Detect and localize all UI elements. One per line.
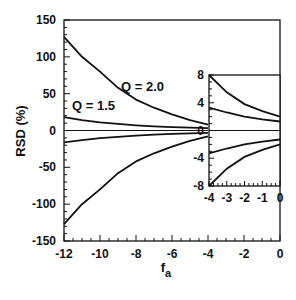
x-tick-label: -10 — [91, 247, 109, 261]
x-axis-title: fa — [161, 260, 172, 279]
x-tick-label: -4 — [203, 247, 214, 261]
inset-y-tick-label: 4 — [197, 96, 204, 110]
y-tick-label: 100 — [36, 50, 56, 64]
y-axis-title: RSD (%) — [13, 105, 28, 156]
y-tick-label: -50 — [39, 160, 57, 174]
inset-x-tick-label: 0 — [277, 191, 284, 205]
curve-line — [64, 136, 208, 224]
q20-annotation: Q = 2.0 — [121, 79, 164, 94]
main-curves — [64, 37, 208, 224]
y-tick-label: -100 — [32, 197, 56, 211]
x-tick-label: -6 — [167, 247, 178, 261]
rsd-chart: 150100500-50-100-150-12-10-8-6-4-20 840-… — [0, 0, 296, 300]
x-axis-title-sub: a — [165, 267, 172, 279]
x-tick-label: -2 — [239, 247, 250, 261]
inset-x-tick-label: -4 — [204, 191, 215, 205]
y-tick-label: 50 — [43, 87, 57, 101]
inset-y-tick-label: 8 — [197, 68, 204, 82]
curve-line — [64, 133, 208, 142]
x-tick-label: -12 — [55, 247, 73, 261]
x-tick-label: 0 — [277, 247, 284, 261]
q15-annotation: Q = 1.5 — [72, 98, 115, 113]
inset-y-tick-label: -4 — [193, 151, 204, 165]
y-tick-label: -150 — [32, 234, 56, 248]
inset-x-tick-label: -1 — [257, 191, 268, 205]
inset-x-tick-label: -3 — [221, 191, 232, 205]
inset-y-tick-label: 0 — [197, 124, 204, 138]
x-tick-label: -8 — [131, 247, 142, 261]
y-tick-label: 150 — [36, 13, 56, 27]
y-tick-label: 0 — [49, 124, 56, 138]
inset-x-tick-label: -2 — [239, 191, 250, 205]
